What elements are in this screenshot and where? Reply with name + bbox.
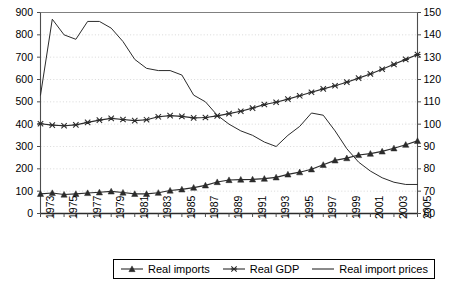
line-marker-icon: [311, 263, 335, 275]
data-point-marker: [391, 62, 397, 67]
y-axis-left-tick-label: 500: [0, 96, 33, 107]
legend-item: Real import prices: [311, 263, 428, 275]
y-axis-left-tick-label: 200: [0, 163, 33, 174]
x-axis-tick-label: 1995: [304, 195, 315, 218]
legend-label: Real import prices: [339, 264, 428, 275]
data-point-marker: [202, 115, 208, 120]
y-axis-right-tick-label: 70: [424, 186, 464, 197]
data-point-marker: [332, 83, 338, 88]
legend-label: Real imports: [148, 264, 210, 275]
data-point-marker: [226, 111, 232, 116]
x-axis-tick-label: 1999: [351, 195, 362, 218]
x-axis-tick-label: 2003: [398, 195, 409, 218]
y-axis-left-tick-label: 400: [0, 119, 33, 130]
triangle-marker-icon: [120, 263, 144, 275]
x-axis-tick-label: 1979: [115, 195, 126, 218]
data-point-marker: [261, 102, 267, 107]
x-axis-tick-label: 1981: [139, 195, 150, 218]
data-point-marker: [355, 75, 361, 80]
series-real-gdp: [37, 52, 420, 129]
data-point-marker: [344, 79, 350, 84]
y-axis-right-tick-label: 110: [424, 96, 464, 107]
y-axis-right-tick-label: 130: [424, 52, 464, 63]
chart-legend: Real importsReal GDPReal import prices: [113, 259, 435, 279]
data-point-marker: [191, 115, 197, 120]
y-axis-right-tick-label: 90: [424, 141, 464, 152]
data-point-marker: [297, 93, 303, 98]
data-point-marker: [273, 100, 279, 105]
axis-ticks: [37, 13, 421, 218]
data-point-marker: [61, 123, 67, 128]
data-point-marker: [214, 113, 220, 118]
x-axis-tick-label: 1975: [68, 195, 79, 218]
x-axis-tick-label: 1991: [257, 195, 268, 218]
y-axis-right-tick-label: 140: [424, 29, 464, 40]
x-marker-icon: [222, 263, 246, 275]
data-point-marker: [179, 114, 185, 119]
series-real-imports: [37, 138, 420, 197]
data-point-marker: [108, 116, 114, 121]
y-axis-right-tick-label: 150: [424, 7, 464, 18]
data-point-marker: [249, 105, 255, 110]
data-point-marker: [143, 117, 149, 122]
data-point-marker: [379, 67, 385, 72]
legend-item: Real GDP: [222, 263, 300, 275]
data-point-marker: [155, 114, 161, 119]
data-point-marker: [132, 118, 138, 123]
x-axis-tick-label: 1997: [327, 195, 338, 218]
y-axis-left-tick-label: 800: [0, 29, 33, 40]
series-line: [41, 54, 418, 125]
x-axis-tick-label: 1993: [280, 195, 291, 218]
x-axis-tick-label: 2005: [422, 195, 433, 218]
data-point-marker: [120, 117, 126, 122]
data-point-marker: [49, 122, 55, 127]
y-axis-left-tick-label: 700: [0, 52, 33, 63]
x-axis-tick-label: 1977: [92, 195, 103, 218]
y-axis-left-tick-label: 600: [0, 74, 33, 85]
y-axis-right-tick-label: 100: [424, 119, 464, 130]
data-point-marker: [231, 266, 237, 271]
y-axis-left-tick-label: 300: [0, 141, 33, 152]
y-axis-right-tick-label: 80: [424, 163, 464, 174]
legend-label: Real GDP: [250, 264, 300, 275]
y-axis-right-tick-label: 120: [424, 74, 464, 85]
data-point-marker: [85, 120, 91, 125]
data-point-marker: [73, 122, 79, 127]
data-point-marker: [238, 109, 244, 114]
data-point-marker: [308, 90, 314, 95]
y-axis-left-tick-label: 0: [0, 208, 33, 219]
x-axis-tick-label: 1973: [45, 195, 56, 218]
series-line: [41, 141, 418, 195]
x-axis-tick-label: 1989: [233, 195, 244, 218]
x-axis-tick-label: 1987: [209, 195, 220, 218]
x-axis-tick-label: 1985: [186, 195, 197, 218]
x-axis-tick-label: 1983: [162, 195, 173, 218]
data-point-marker: [320, 86, 326, 91]
data-point-marker: [96, 117, 102, 122]
x-axis-tick-label: 2001: [374, 195, 385, 218]
chart-figure: 0100200300400500600700800900607080901001…: [0, 0, 467, 286]
y-axis-left-tick-label: 100: [0, 186, 33, 197]
y-axis-left-tick-label: 900: [0, 7, 33, 18]
data-point-marker: [167, 113, 173, 118]
data-point-marker: [414, 138, 420, 144]
data-point-marker: [367, 71, 373, 76]
chart-plot-area: [0, 0, 467, 286]
legend-item: Real imports: [120, 263, 210, 275]
data-point-marker: [285, 96, 291, 101]
